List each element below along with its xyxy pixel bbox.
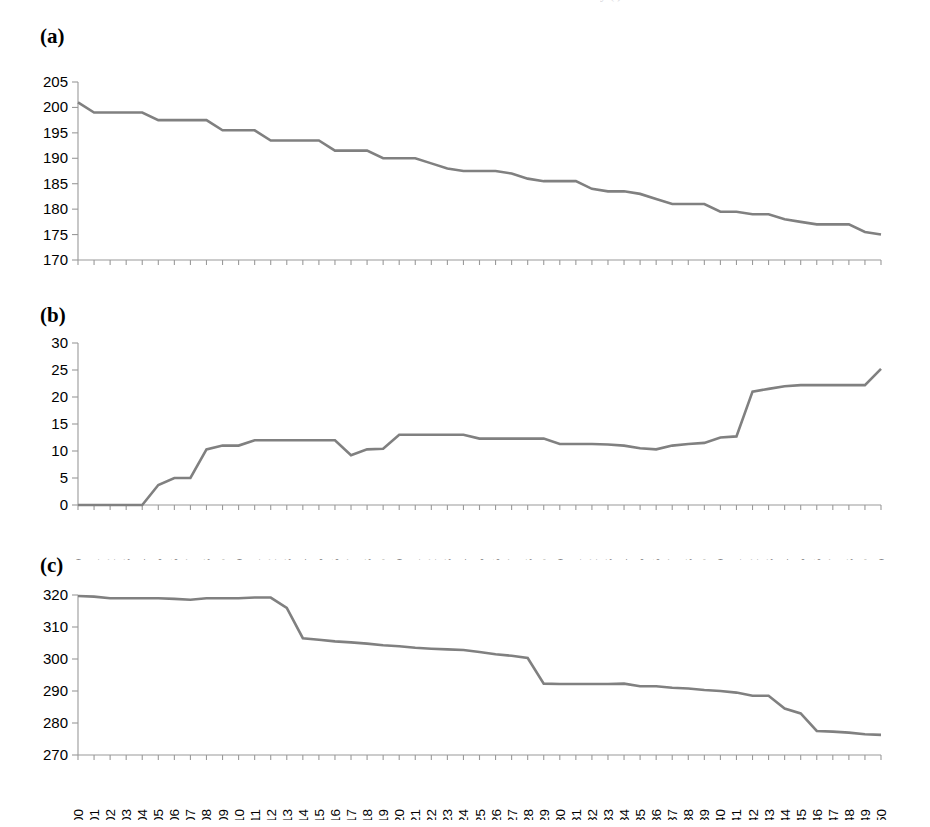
data-series-line <box>78 369 881 505</box>
panel-c-plot: 2702802903003103203003013023033043053063… <box>0 555 930 820</box>
x-tick-label: 324 <box>456 809 471 820</box>
x-tick-label: 312 <box>264 809 279 820</box>
chart-c-svg: 2702802903003103203003013023033043053063… <box>0 555 930 820</box>
x-tick-label: 347 <box>826 809 841 820</box>
x-tick-label: 304 <box>135 809 150 820</box>
y-tick-label: 320 <box>43 586 68 603</box>
x-tick-label: 315 <box>312 809 327 820</box>
panel-b: (b) 051015202530300301302303304305306307… <box>0 305 930 560</box>
x-tick-label: 307 <box>183 809 198 820</box>
x-tick-label: 316 <box>328 809 343 820</box>
x-tick-label: 302 <box>103 809 118 820</box>
y-tick-label: 290 <box>43 682 68 699</box>
x-tick-label: 336 <box>649 809 664 820</box>
x-tick-label: 327 <box>505 809 520 820</box>
panel-a-plot: 1701751801851901952002053003013023033043… <box>0 26 930 311</box>
x-tick-label: 310 <box>232 809 247 820</box>
y-tick-label: 195 <box>43 124 68 141</box>
y-tick-label: 5 <box>60 469 68 486</box>
x-tick-label: 321 <box>408 809 423 820</box>
chart-a-svg: 1701751801851901952002053003013023033043… <box>0 26 930 311</box>
x-tick-label: 329 <box>537 809 552 820</box>
x-tick-label: 318 <box>360 809 375 820</box>
x-tick-label: 331 <box>569 809 584 820</box>
clipped-header-text: y ( ) <box>600 0 930 8</box>
data-series-line <box>78 102 881 234</box>
y-tick-label: 270 <box>43 746 68 763</box>
x-tick-label: 311 <box>248 809 263 820</box>
y-tick-label: 280 <box>43 714 68 731</box>
y-tick-label: 0 <box>60 496 68 513</box>
y-tick-label: 200 <box>43 98 68 115</box>
y-tick-label: 190 <box>43 149 68 166</box>
x-tick-label: 314 <box>296 809 311 820</box>
x-tick-label: 301 <box>87 809 102 820</box>
y-tick-label: 175 <box>43 226 68 243</box>
y-tick-label: 25 <box>51 361 68 378</box>
x-tick-label: 317 <box>344 809 359 820</box>
y-tick-label: 180 <box>43 200 68 217</box>
y-tick-label: 15 <box>51 415 68 432</box>
x-tick-label: 339 <box>697 809 712 820</box>
x-tick-label: 300 <box>71 809 86 820</box>
y-tick-label: 185 <box>43 175 68 192</box>
x-tick-label: 303 <box>119 809 134 820</box>
y-tick-label: 10 <box>51 442 68 459</box>
x-tick-label: 306 <box>167 809 182 820</box>
x-tick-label: 313 <box>280 809 295 820</box>
y-tick-label: 300 <box>43 650 68 667</box>
x-tick-label: 309 <box>216 809 231 820</box>
x-tick-label: 335 <box>633 809 648 820</box>
x-tick-label: 305 <box>151 809 166 820</box>
x-tick-label: 345 <box>794 809 809 820</box>
figure-page: y ( ) (a) 170175180185190195200205300301… <box>0 0 930 827</box>
x-tick-label: 337 <box>665 809 680 820</box>
x-tick-label: 350 <box>874 809 889 820</box>
x-tick-label: 322 <box>424 809 439 820</box>
x-tick-label: 338 <box>681 809 696 820</box>
x-tick-label: 334 <box>617 809 632 820</box>
x-tick-label: 342 <box>746 809 761 820</box>
y-tick-label: 205 <box>43 73 68 90</box>
y-tick-label: 20 <box>51 388 68 405</box>
panel-c: (c) 270280290300310320300301302303304305… <box>0 555 930 820</box>
x-tick-label: 319 <box>376 809 391 820</box>
x-tick-label: 340 <box>713 809 728 820</box>
panel-b-plot: 0510152025303003013023033043053063073083… <box>0 305 930 560</box>
data-series-line <box>78 596 881 735</box>
x-tick-label: 332 <box>585 809 600 820</box>
x-tick-label: 343 <box>762 809 777 820</box>
x-tick-label: 344 <box>778 809 793 820</box>
x-tick-label: 346 <box>810 809 825 820</box>
x-tick-label: 326 <box>489 809 504 820</box>
chart-b-svg: 0510152025303003013023033043053063073083… <box>0 305 930 560</box>
x-tick-label: 341 <box>729 809 744 820</box>
x-tick-label: 308 <box>199 809 214 820</box>
x-tick-label: 325 <box>473 809 488 820</box>
panel-a: (a) 170175180185190195200205300301302303… <box>0 26 930 311</box>
y-tick-label: 30 <box>51 334 68 351</box>
x-tick-label: 349 <box>858 809 873 820</box>
x-tick-label: 328 <box>521 809 536 820</box>
x-tick-label: 320 <box>392 809 407 820</box>
x-tick-label: 348 <box>842 809 857 820</box>
x-tick-label: 333 <box>601 809 616 820</box>
y-tick-label: 170 <box>43 251 68 268</box>
y-tick-label: 310 <box>43 618 68 635</box>
x-tick-label: 330 <box>553 809 568 820</box>
x-tick-label: 323 <box>440 809 455 820</box>
